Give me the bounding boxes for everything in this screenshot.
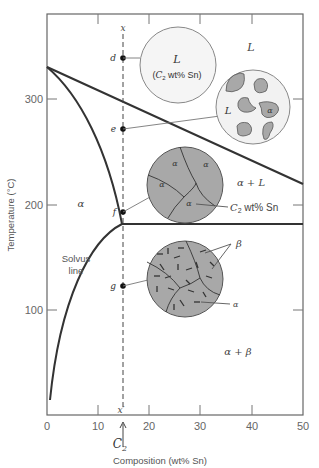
x-tick-40: 40 xyxy=(246,420,258,432)
x-tick-30: 30 xyxy=(194,420,206,432)
svg-text:α: α xyxy=(267,106,273,115)
region-alpha-liquid-label: α + L xyxy=(237,177,265,188)
x-tick-10: 10 xyxy=(92,420,104,432)
c2-marker: C2 xyxy=(113,422,127,453)
composition-line-top-label: x xyxy=(120,23,125,33)
svg-text:g: g xyxy=(110,281,116,291)
svg-text:f: f xyxy=(112,207,118,217)
y-tick-labels: 100 200 300 xyxy=(25,93,43,316)
x-tick-50: 50 xyxy=(297,420,309,432)
region-alpha-beta-label: α + β xyxy=(224,346,251,357)
svg-text:d: d xyxy=(110,53,116,63)
microstructure-e: L α xyxy=(216,70,290,144)
svg-text:α: α xyxy=(186,199,192,208)
region-liquid-label: L xyxy=(246,41,254,54)
composition-line-bottom-label: x′ xyxy=(117,405,124,415)
y-tick-200: 200 xyxy=(25,199,43,211)
svg-text:Solvus: Solvus xyxy=(62,253,91,264)
svg-text:L: L xyxy=(172,53,180,66)
y-tick-100: 100 xyxy=(25,304,43,316)
microstructure-d: L (C2 wt% Sn) xyxy=(140,27,216,103)
region-alpha-label: α xyxy=(78,198,85,209)
svg-text:C2 wt% Sn: C2 wt% Sn xyxy=(230,202,278,214)
solvus-line xyxy=(50,224,122,400)
svg-text:α: α xyxy=(203,160,209,169)
y-axis-title: Temperature (°C) xyxy=(5,179,16,252)
svg-text:C2: C2 xyxy=(113,437,127,453)
phase-diagram: 0 10 20 30 40 50 100 200 300 Composition… xyxy=(0,0,319,468)
svg-text:α: α xyxy=(172,159,178,168)
x-tick-0: 0 xyxy=(44,420,50,432)
x-axis-title: Composition (wt% Sn) xyxy=(113,455,207,466)
microstructure-g: β α xyxy=(147,238,242,317)
svg-text:β: β xyxy=(235,238,242,249)
y-tick-300: 300 xyxy=(25,93,43,105)
svg-text:L: L xyxy=(224,105,232,116)
svg-text:α: α xyxy=(159,180,165,189)
x-tick-labels: 0 10 20 30 40 50 xyxy=(44,420,309,432)
svg-text:line: line xyxy=(69,265,84,276)
x-tick-20: 20 xyxy=(143,420,155,432)
svg-text:(C2 wt% Sn): (C2 wt% Sn) xyxy=(152,70,201,81)
svg-text:α: α xyxy=(233,300,239,309)
svg-text:e: e xyxy=(111,124,116,134)
solidus-line xyxy=(47,67,122,224)
